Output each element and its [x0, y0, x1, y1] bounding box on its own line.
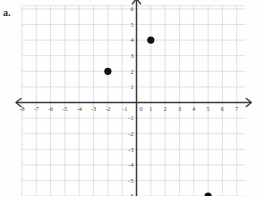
data-point — [104, 68, 111, 75]
x-tick-label: -5 — [62, 105, 67, 112]
x-tick-label: -6 — [48, 105, 53, 112]
y-tick-label: 6 — [130, 5, 133, 12]
tick-labels: -8-7-6-5-4-3-2-101234567654321-1-2-3-4-5… — [19, 5, 238, 196]
x-tick-label: -2 — [105, 105, 110, 112]
axes — [16, 0, 251, 196]
data-point — [147, 37, 154, 44]
gridlines — [22, 6, 245, 196]
y-tick-label: 1 — [130, 83, 133, 90]
x-tick-label: 6 — [221, 105, 224, 112]
x-tick-label: 4 — [192, 105, 195, 112]
data-points — [104, 37, 211, 197]
y-tick-label: -1 — [128, 114, 133, 121]
x-tick-label: -1 — [122, 105, 127, 112]
coordinate-plane-figure: a. -8-7-6-5-4-3-2-101234567654321-1-2-3-… — [0, 0, 262, 196]
x-tick-label: -4 — [77, 105, 82, 112]
x-tick-label: 0 — [139, 105, 142, 112]
y-tick-label: 2 — [130, 68, 133, 75]
scatter-plot: -8-7-6-5-4-3-2-101234567654321-1-2-3-4-5… — [0, 0, 262, 196]
y-tick-label: -5 — [128, 177, 133, 184]
x-tick-label: 7 — [235, 105, 238, 112]
x-tick-label: 3 — [178, 105, 181, 112]
x-tick-label: 1 — [149, 105, 152, 112]
x-tick-label: 5 — [207, 105, 210, 112]
y-tick-label: -3 — [128, 146, 133, 153]
x-tick-label: 2 — [164, 105, 167, 112]
y-tick-label: 3 — [130, 52, 133, 59]
x-tick-label: -3 — [91, 105, 96, 112]
y-tick-label: -6 — [128, 192, 133, 196]
y-tick-label: -4 — [128, 161, 133, 168]
y-tick-label: 4 — [130, 36, 133, 43]
x-tick-label: -7 — [34, 105, 39, 112]
y-tick-label: -2 — [128, 130, 133, 137]
x-tick-label: -8 — [19, 105, 24, 112]
data-point — [205, 193, 212, 197]
y-tick-label: 5 — [130, 21, 133, 28]
